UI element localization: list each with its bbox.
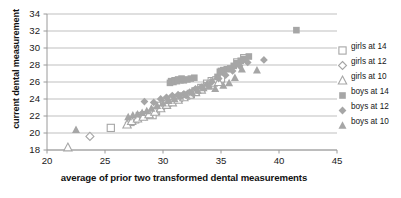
legend-marker-open-triangle-icon bbox=[337, 72, 348, 83]
legend-item-label: girls at 14 bbox=[351, 43, 387, 51]
legend-item-label: girls at 12 bbox=[351, 58, 387, 66]
scatter-chart: current dental measurement 3432302826242… bbox=[0, 0, 401, 198]
legend-item-girls-at-14[interactable]: girls at 14 bbox=[337, 40, 401, 55]
x-tick-label: 40 bbox=[266, 156, 292, 166]
x-tick-label: 20 bbox=[34, 156, 60, 166]
marker-filled-square bbox=[339, 92, 346, 99]
x-axis-title: average of prior two transformed dental … bbox=[28, 172, 340, 183]
legend-item-boys-at-12[interactable]: boys at 12 bbox=[337, 100, 401, 115]
legend-marker-filled-triangle-icon bbox=[337, 117, 348, 128]
x-tick-label: 45 bbox=[324, 156, 350, 166]
chart-legend: girls at 14girls at 12girls at 10boys at… bbox=[337, 40, 401, 130]
x-tick-label: 35 bbox=[208, 156, 234, 166]
marker-filled-triangle bbox=[339, 121, 347, 128]
legend-item-boys-at-10[interactable]: boys at 10 bbox=[337, 115, 401, 130]
legend-marker-open-diamond-icon bbox=[337, 57, 348, 68]
legend-marker-open-square-icon bbox=[337, 42, 348, 53]
marker-open-triangle bbox=[338, 76, 346, 84]
x-tick-label: 25 bbox=[92, 156, 118, 166]
legend-item-label: boys at 12 bbox=[351, 103, 389, 111]
marker-filled-diamond bbox=[339, 107, 347, 115]
legend-item-boys-at-14[interactable]: boys at 14 bbox=[337, 85, 401, 100]
legend-item-label: girls at 10 bbox=[351, 73, 387, 81]
legend-marker-filled-diamond-icon bbox=[337, 102, 348, 113]
marker-open-diamond bbox=[339, 62, 347, 70]
legend-item-label: boys at 14 bbox=[351, 88, 389, 96]
legend-item-girls-at-10[interactable]: girls at 10 bbox=[337, 70, 401, 85]
marker-open-square bbox=[339, 47, 346, 54]
legend-item-girls-at-12[interactable]: girls at 12 bbox=[337, 55, 401, 70]
legend-item-label: boys at 10 bbox=[351, 118, 389, 126]
legend-marker-filled-square-icon bbox=[337, 87, 348, 98]
x-tick-label: 30 bbox=[150, 156, 176, 166]
